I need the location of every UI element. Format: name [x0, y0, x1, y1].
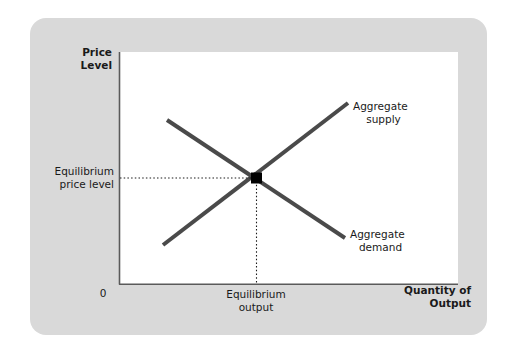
aggregate-supply-line-1: Aggregate — [353, 100, 408, 112]
equilibrium-price-level-line-1: Equilibrium — [55, 165, 115, 177]
x-axis-title: Quantity ofOutput — [346, 284, 471, 310]
aggregate-supply-line-2: supply — [353, 113, 414, 126]
aggregate-supply-label: Aggregatesupply — [353, 100, 461, 126]
equilibrium-output-line-1: Equilibrium — [226, 288, 286, 300]
y-axis-title: PriceLevel — [50, 46, 112, 72]
equilibrium-price-level-label: Equilibriumprice level — [30, 165, 114, 191]
y-axis-title-line-1: Price — [82, 46, 112, 58]
equilibrium-output-line-2: output — [239, 301, 274, 313]
aggregate-supply-demand-figure: PriceLevel Equilibriumprice level 0 Equi… — [0, 0, 517, 352]
equilibrium-price-level-line-2: price level — [60, 178, 114, 190]
x-axis-title-line-2: Output — [430, 297, 471, 309]
x-axis-title-line-1: Quantity of — [404, 284, 471, 296]
y-axis-title-line-2: Level — [81, 59, 112, 71]
aggregate-demand-line-1: Aggregate — [350, 228, 405, 240]
origin-label: 0 — [96, 287, 110, 300]
aggregate-demand-label: Aggregatedemand — [350, 228, 458, 254]
aggregate-demand-line-2: demand — [350, 241, 411, 254]
equilibrium-point-marker — [251, 173, 262, 184]
equilibrium-output-label: Equilibriumoutput — [196, 288, 316, 314]
